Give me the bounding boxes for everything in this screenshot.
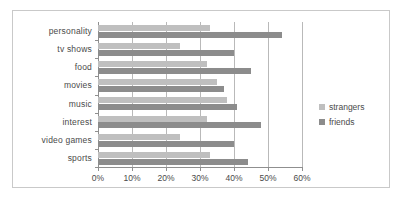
chart-frame: personalitytv showsfoodmoviesmusicintere… bbox=[12, 10, 390, 188]
x-axis-tick-label: 10% bbox=[123, 173, 140, 183]
chart-legend: strangersfriends bbox=[319, 99, 387, 129]
bar-row: tv shows bbox=[98, 40, 302, 58]
bar-row: food bbox=[98, 58, 302, 76]
category-label: personality bbox=[49, 22, 92, 40]
bar-row: movies bbox=[98, 76, 302, 94]
x-axis-tick-labels: 0%10%20%30%40%50%60% bbox=[98, 173, 302, 187]
category-label: video games bbox=[42, 131, 92, 149]
bar-strangers bbox=[98, 79, 217, 85]
x-axis-tick bbox=[200, 167, 201, 171]
x-axis-tick-label: 40% bbox=[225, 173, 242, 183]
x-axis-tick bbox=[166, 167, 167, 171]
x-axis-tick bbox=[98, 167, 99, 171]
x-axis-tick-label: 30% bbox=[191, 173, 208, 183]
x-axis-tick-label: 60% bbox=[293, 173, 310, 183]
legend-label: friends bbox=[329, 117, 355, 127]
category-label: music bbox=[69, 95, 92, 113]
category-label: movies bbox=[64, 76, 92, 94]
bar-friends bbox=[98, 122, 261, 128]
bar-row: video games bbox=[98, 131, 302, 149]
x-axis-tick bbox=[302, 167, 303, 171]
x-axis-tick-label: 20% bbox=[157, 173, 174, 183]
legend-item: friends bbox=[319, 114, 387, 129]
x-axis-tick-label: 50% bbox=[259, 173, 276, 183]
legend-label: strangers bbox=[329, 102, 364, 112]
bar-strangers bbox=[98, 61, 207, 67]
bar-strangers bbox=[98, 152, 210, 158]
x-axis-tick bbox=[268, 167, 269, 171]
bar-strangers bbox=[98, 43, 180, 49]
bar-strangers bbox=[98, 97, 227, 103]
category-label: tv shows bbox=[57, 40, 92, 58]
x-axis-tick bbox=[132, 167, 133, 171]
bar-friends bbox=[98, 86, 224, 92]
bar-row: sports bbox=[98, 149, 302, 167]
bar-friends bbox=[98, 159, 248, 165]
bar-row: interest bbox=[98, 113, 302, 131]
plot-area: personalitytv showsfoodmoviesmusicintere… bbox=[98, 22, 302, 167]
category-label: food bbox=[75, 58, 92, 76]
legend-swatch-icon bbox=[319, 104, 325, 110]
gridline-60 bbox=[302, 22, 303, 167]
bar-friends bbox=[98, 104, 237, 110]
x-axis-tick-label: 0% bbox=[92, 173, 104, 183]
bar-rows: personalitytv showsfoodmoviesmusicintere… bbox=[98, 22, 302, 167]
bar-row: music bbox=[98, 95, 302, 113]
bar-strangers bbox=[98, 116, 207, 122]
bar-friends bbox=[98, 50, 234, 56]
legend-item: strangers bbox=[319, 99, 387, 114]
category-label: sports bbox=[68, 149, 92, 167]
bar-strangers bbox=[98, 134, 180, 140]
bar-friends bbox=[98, 68, 251, 74]
category-label: interest bbox=[63, 113, 92, 131]
bar-strangers bbox=[98, 25, 210, 31]
bar-row: personality bbox=[98, 22, 302, 40]
x-axis-tick bbox=[234, 167, 235, 171]
bar-friends bbox=[98, 32, 282, 38]
bar-friends bbox=[98, 141, 234, 147]
legend-swatch-icon bbox=[319, 119, 325, 125]
